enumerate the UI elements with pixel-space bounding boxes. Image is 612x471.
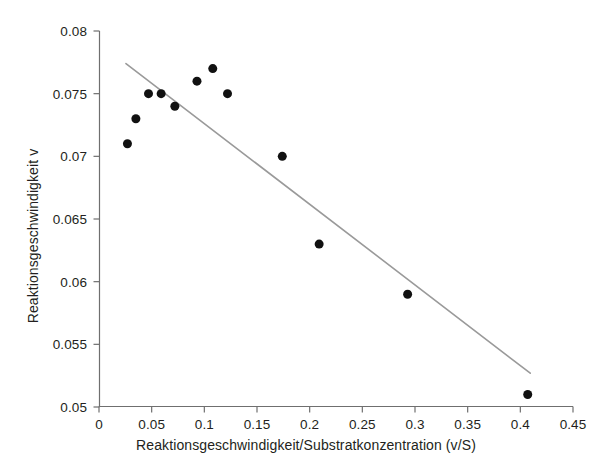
data-point [208, 64, 217, 73]
x-axis-title: Reaktionsgeschwindigkeit/Substratkonzent… [0, 437, 612, 453]
data-point [144, 89, 153, 98]
data-point [278, 152, 287, 161]
chart-figure: Reaktionsgeschwindigkeit v 0.050.0550.06… [0, 0, 612, 471]
x-tick-label: 0.2 [300, 417, 319, 432]
data-point [315, 240, 324, 249]
y-tick-label: 0.07 [0, 149, 87, 164]
x-tick-label: 0.05 [138, 417, 165, 432]
x-tick-label: 0.1 [195, 417, 214, 432]
x-tick-label: 0.3 [405, 417, 424, 432]
y-tick-label: 0.08 [0, 24, 87, 39]
y-axis-title: Reaktionsgeschwindigkeit v [25, 148, 41, 323]
x-tick-label: 0.4 [511, 417, 530, 432]
data-point [131, 114, 140, 123]
x-tick-label: 0.35 [454, 417, 481, 432]
data-point [192, 77, 201, 86]
data-point [523, 390, 532, 399]
scatter-points [123, 64, 532, 399]
y-tick-label: 0.065 [0, 212, 87, 227]
data-point [123, 139, 132, 148]
x-tick-label: 0.45 [560, 417, 587, 432]
x-tick-label: 0.25 [349, 417, 376, 432]
regression-line-path [126, 64, 530, 374]
data-point [403, 290, 412, 299]
x-tick-label: 0 [95, 417, 103, 432]
data-layer [99, 31, 573, 407]
y-tick-label: 0.05 [0, 400, 87, 415]
data-point [170, 102, 179, 111]
y-tick-label: 0.075 [0, 86, 87, 101]
regression-line [126, 64, 530, 374]
data-point [223, 89, 232, 98]
plot-area: 0.050.0550.060.0650.070.0750.08 00.050.1… [99, 31, 573, 407]
y-tick-label: 0.06 [0, 274, 87, 289]
x-tick-marks [99, 407, 573, 413]
y-tick-label: 0.055 [0, 337, 87, 352]
x-tick-label: 0.15 [244, 417, 271, 432]
data-point [157, 89, 166, 98]
